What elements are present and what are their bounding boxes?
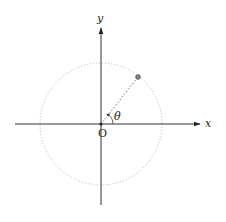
angle-label: θ — [114, 110, 121, 123]
y-axis-label: y — [96, 12, 104, 25]
coordinate-diagram: y x O θ — [0, 0, 226, 222]
origin-dot — [99, 122, 102, 125]
origin-label: O — [98, 127, 107, 140]
point-on-circle — [136, 75, 141, 80]
angle-arc-arrowhead-icon — [106, 114, 109, 117]
angle-arc — [108, 115, 113, 124]
x-axis-label: x — [205, 117, 212, 130]
